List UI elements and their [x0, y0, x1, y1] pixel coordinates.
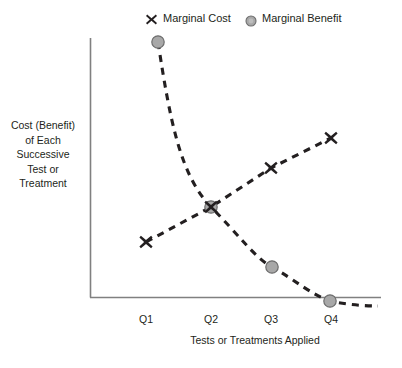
y-axis-title-line-5: Treatment	[4, 176, 82, 191]
data-point-benefit-q4[interactable]	[324, 295, 336, 307]
data-point-benefit-q1[interactable]	[152, 36, 164, 48]
x-tick-label-q4: Q4	[316, 313, 346, 326]
data-point-cost-q3[interactable]	[264, 162, 277, 174]
marginal-benefit-markers	[152, 36, 336, 307]
chart-figure: Marginal Cost Marginal Benefit	[0, 0, 402, 368]
y-axis-title-line-3: Successive	[4, 147, 82, 162]
marginal-cost-curve	[146, 138, 331, 242]
data-point-cost-q4[interactable]	[324, 132, 337, 144]
x-tick-label-q3: Q3	[256, 313, 286, 326]
x-axis-title: Tests or Treatments Applied	[130, 334, 380, 347]
caption-sliver	[30, 360, 370, 367]
y-axis-title: Cost (Benefit) of Each Successive Test o…	[4, 118, 82, 191]
y-axis-title-line-4: Test or	[4, 162, 82, 177]
data-point-cost-q1[interactable]	[139, 236, 152, 248]
x-tick-label-q2: Q2	[196, 313, 226, 326]
y-axis-title-line-2: of Each	[4, 133, 82, 148]
y-axis-title-line-1: Cost (Benefit)	[4, 118, 82, 133]
data-point-benefit-q3[interactable]	[266, 261, 278, 273]
x-tick-label-q1: Q1	[131, 313, 161, 326]
